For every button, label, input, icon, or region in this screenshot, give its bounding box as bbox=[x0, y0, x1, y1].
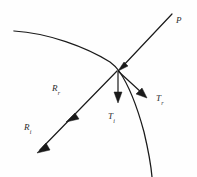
label-transmitted-ray-Tr: Tr bbox=[156, 94, 163, 105]
label-Rr-sub: r bbox=[58, 90, 60, 96]
transmitted-ray-Ti-arrowhead bbox=[114, 92, 122, 103]
incident-ray-P-line bbox=[122, 14, 172, 67]
reflected-ray-R-mid-arrowhead bbox=[66, 113, 79, 122]
label-Ri-base: R bbox=[24, 122, 30, 132]
label-reflected-ray-Ri: Ri bbox=[24, 123, 31, 134]
label-transmitted-ray-Ti: Ti bbox=[108, 112, 115, 123]
incident-ray-P-arrowhead bbox=[118, 62, 128, 71]
label-Ti-sub: i bbox=[113, 118, 115, 124]
interface-curve bbox=[14, 31, 152, 177]
diagram-svg bbox=[0, 0, 197, 177]
label-Rr-base: R bbox=[52, 83, 58, 93]
label-incident-ray-P: P bbox=[176, 16, 182, 27]
reflected-ray-R-end-arrowhead bbox=[37, 143, 50, 153]
label-reflected-ray-Rr: Rr bbox=[52, 84, 60, 95]
diagram-canvas: P Rr Ri Ti Tr bbox=[0, 0, 197, 177]
label-Tr-sub: r bbox=[161, 100, 163, 106]
label-P-base: P bbox=[176, 15, 182, 25]
